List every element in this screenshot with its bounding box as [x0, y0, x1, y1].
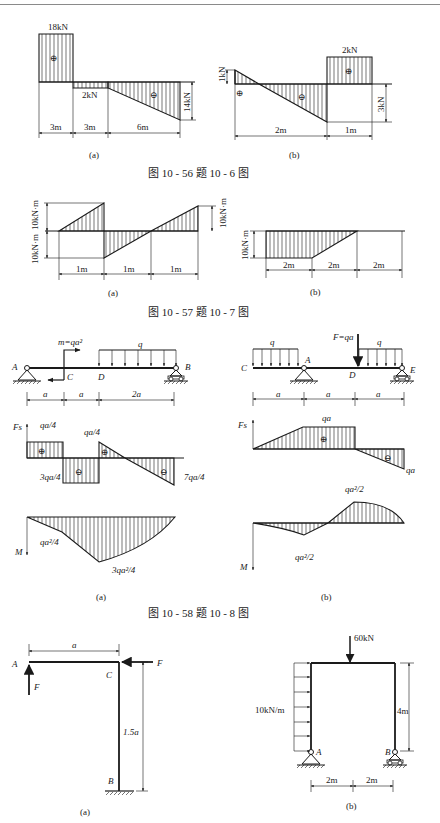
label-qa-over-4: qa/4 — [40, 420, 57, 430]
figure-page: 18kN 2kN ⊕ ⊖ 14kN 3m 3m 6m (a) 2kN ⊕ ⊖ ⊕… — [0, 0, 440, 823]
point-D: D — [348, 370, 356, 380]
span-1m: 1m — [170, 264, 182, 274]
span-3m: 3m — [50, 122, 62, 132]
fig-10-58-a-beam: m=qa² q A C D B a a 2a — [11, 337, 191, 406]
label-qa2-over-4: qa²/4 — [40, 537, 59, 547]
plus-sign: ⊕ — [38, 446, 46, 456]
height-1-5a: 1.5a — [123, 727, 139, 737]
sub-label-a: (a) — [108, 288, 118, 298]
plus-sign: ⊕ — [345, 66, 353, 76]
span-2m: 2m — [328, 260, 340, 270]
value-3kN: 3kN — [376, 96, 386, 112]
label-qa: qa — [406, 465, 416, 475]
point-A: A — [315, 747, 322, 757]
span-a: a — [43, 389, 48, 399]
point-C: C — [67, 372, 74, 382]
point-D: D — [97, 372, 105, 382]
minus-sign: ⊖ — [75, 467, 83, 477]
sub-label-b: (b) — [321, 592, 332, 602]
span-a: a — [276, 389, 281, 399]
point-A: A — [11, 659, 18, 669]
fig-10-58-a-moment-diagram: M qa²/4 3qa²/4 (a) — [14, 517, 175, 602]
sub-label-b: (b) — [310, 287, 321, 297]
plus-sign: ⊕ — [101, 447, 109, 457]
point-C: C — [241, 363, 248, 373]
fig-10-57-b-moment-diagram: 10kN·m 2m 2m 2m (b) — [240, 230, 405, 297]
value-10kNm-top: 10kN·m — [30, 200, 40, 230]
span-2m: 2m — [373, 260, 385, 270]
span-1m: 1m — [123, 264, 135, 274]
plus-sign: ⊕ — [320, 434, 328, 444]
span-2m: 2m — [366, 775, 378, 785]
value-1kN: 1kN — [217, 66, 227, 82]
span-a: a — [376, 389, 381, 399]
frame-b: 60kN 10kN/m A B 4m 2m 2m (b) — [255, 633, 414, 811]
value-14kN: 14kN — [182, 92, 192, 113]
plus-sign: ⊕ — [236, 88, 244, 98]
span-2m: 2m — [283, 260, 295, 270]
label-3qa-over-4: 3qa/4 — [39, 472, 61, 482]
axis-M: M — [14, 547, 23, 557]
fig-10-57-a-moment-diagram: 10kN·m 10kN·m 10kN·m 1m 1m 1m (a) — [30, 198, 228, 298]
point-B: B — [185, 362, 191, 372]
sub-label-b: (b) — [289, 150, 300, 160]
span-a: a — [79, 389, 84, 399]
load-q-label: q — [270, 337, 275, 347]
fig-10-58-b-shear-diagram: Fs qa qa ⊕ ⊖ — [237, 413, 416, 475]
fig-10-58-b-moment-diagram: M qa²/2 qa²/2 (b) — [239, 484, 404, 602]
height-4m: 4m — [397, 706, 409, 716]
sub-label-a: (a) — [89, 150, 99, 160]
minus-sign: ⊖ — [298, 92, 306, 102]
fig-10-58-b-beam: F=qa q q C A D E a a a — [241, 332, 416, 406]
plus-sign: ⊕ — [50, 53, 58, 63]
distributed-load-10kN-per-m: 10kN/m — [255, 705, 285, 715]
span-a: a — [326, 389, 331, 399]
span-1m: 1m — [345, 125, 357, 135]
value-18kN: 18kN — [48, 22, 69, 32]
label-qa-over-4: qa/4 — [84, 427, 101, 437]
axis-Fs: Fs — [237, 420, 247, 430]
value-2kN: 2kN — [342, 45, 358, 55]
label-3qa2-over-4: 3qa²/4 — [111, 565, 136, 575]
label-qa: qa — [322, 413, 332, 423]
span-6m: 6m — [137, 122, 149, 132]
sub-label-a: (a) — [80, 807, 90, 817]
point-C: C — [106, 670, 113, 680]
minus-sign: ⊖ — [150, 90, 158, 100]
label-7qa-over-4: 7qa/4 — [184, 472, 205, 482]
point-A: A — [304, 355, 311, 365]
label-qa2-over-2: qa²/2 — [345, 484, 364, 494]
moment-label: m=qa² — [58, 337, 83, 347]
span-2m: 2m — [275, 125, 287, 135]
fig-10-56-a-shear-diagram: 18kN 2kN ⊕ ⊖ 14kN 3m 3m 6m (a) — [39, 22, 196, 160]
width-a: a — [72, 640, 77, 650]
fig-10-56-b-shear-diagram: 2kN ⊕ ⊖ ⊕ 1kN 3kN 2m 1m (b) — [217, 45, 392, 160]
span-3m: 3m — [84, 122, 96, 132]
label-qa2-over-2: qa²/2 — [295, 552, 314, 562]
caption-fig-10-58: 图 10 - 58 题 10 - 8 图 — [148, 607, 249, 619]
point-E: E — [409, 365, 416, 375]
value-2kN: 2kN — [82, 90, 98, 100]
point-A: A — [11, 362, 18, 372]
axis-M: M — [239, 562, 248, 572]
sub-label-b: (b) — [346, 801, 357, 811]
fig-10-58-a-shear-diagram: Fs qa/4 3qa/4 qa/4 7qa/4 ⊕ ⊖ ⊕ ⊖ — [12, 420, 205, 485]
force-F: F — [33, 682, 40, 692]
minus-sign: ⊖ — [160, 467, 168, 477]
force-label: F=qa — [332, 332, 354, 342]
axis-Fs: Fs — [12, 422, 22, 432]
point-load-60kN: 60kN — [354, 633, 375, 643]
load-q-label: q — [138, 339, 143, 349]
caption-fig-10-56: 图 10 - 56 题 10 - 6 图 — [148, 167, 249, 179]
span-2m: 2m — [326, 775, 338, 785]
point-B: B — [385, 747, 391, 757]
minus-sign: ⊖ — [384, 453, 392, 463]
value-10kNm-right: 10kN·m — [218, 198, 228, 228]
caption-fig-10-57: 图 10 - 57 题 10 - 7 图 — [148, 306, 249, 318]
span-2a: 2a — [132, 389, 142, 399]
value-10kNm-bottom: 10kN·m — [30, 234, 40, 264]
point-B: B — [108, 776, 114, 786]
sub-label-a: (a) — [96, 592, 106, 602]
load-q-label: q — [377, 337, 382, 347]
force-F: F — [156, 658, 163, 668]
